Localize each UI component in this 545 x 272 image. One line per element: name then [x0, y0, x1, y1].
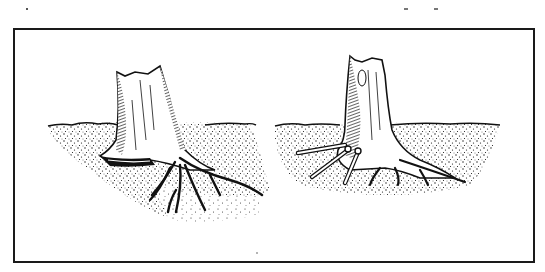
right-stump-group	[275, 56, 500, 195]
stray-dot	[256, 252, 258, 254]
left-stump-group	[48, 66, 270, 222]
stumps-illustration	[0, 0, 545, 272]
